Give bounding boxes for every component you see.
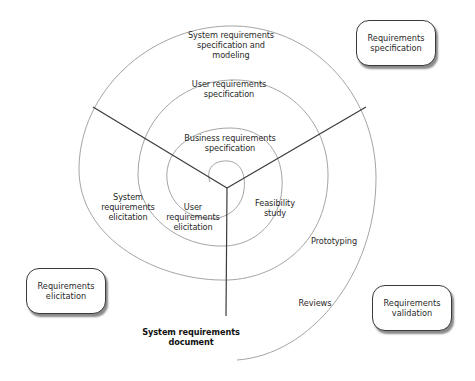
box-requirements-validation: Requirements validation xyxy=(372,285,452,331)
label-prototyping: Prototyping xyxy=(311,236,357,246)
label-system-spec-modeling: System requirements specification and mo… xyxy=(188,30,274,60)
label-system-elicitation: System requirements elicitation xyxy=(101,192,155,222)
label-system-requirements-document: System requirements document xyxy=(142,327,239,347)
box-requirements-elicitation-label: Requirements elicitation xyxy=(38,281,95,301)
divider-bottom xyxy=(226,188,227,316)
box-requirements-validation-label: Requirements validation xyxy=(384,298,441,318)
label-user-elicitation: User requirements elicitation xyxy=(166,202,220,232)
label-user-spec: User requirements specification xyxy=(192,79,266,99)
label-feasibility: Feasibility study xyxy=(255,198,295,218)
spiral-ring-3 xyxy=(138,80,328,280)
label-reviews: Reviews xyxy=(299,298,332,308)
box-requirements-elicitation: Requirements elicitation xyxy=(26,268,106,314)
box-requirements-specification: Requirements specification xyxy=(356,20,436,66)
box-requirements-specification-label: Requirements specification xyxy=(368,33,425,53)
label-business-spec: Business requirements specification xyxy=(184,133,275,153)
